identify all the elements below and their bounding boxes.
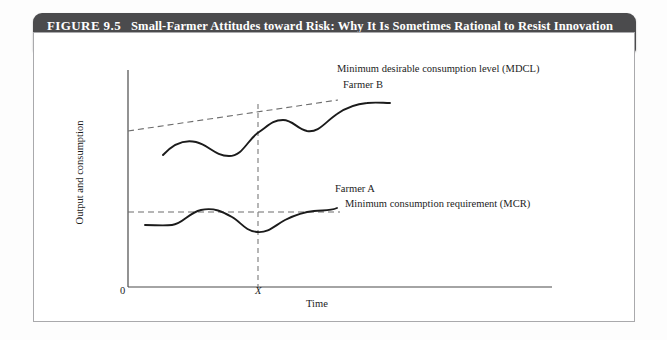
x-tick-label: X — [255, 285, 261, 296]
farmer-b-annotation-label: Farmer B — [343, 79, 383, 90]
mdcl-annotation-label: Minimum desirable consumption level (MDC… — [337, 63, 539, 74]
y-axis-label: Output and consumption — [74, 108, 85, 238]
farmer-b-curve — [163, 103, 390, 156]
origin-tick-label: 0 — [120, 285, 125, 296]
x-axis-label: Time — [306, 298, 328, 309]
figure-page: FIGURE 9.5Small-Farmer Attitudes toward … — [0, 0, 667, 340]
chart-plot-area: Output and consumption Minimum desirable… — [33, 32, 635, 322]
mdcl-dashed-line — [128, 100, 338, 131]
figure-title-line-1: Small-Farmer Attitudes toward Risk: Why … — [131, 19, 613, 33]
farmer-a-annotation-label: Farmer A — [335, 183, 375, 194]
chart-svg — [33, 32, 635, 322]
mcr-annotation-label: Minimum consumption requirement (MCR) — [345, 198, 530, 209]
